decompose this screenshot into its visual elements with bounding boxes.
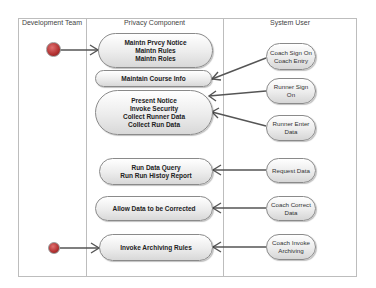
actor-line: Archiving [272,247,310,255]
actor-runner-sign-on[interactable]: Runner Sign On [266,78,316,104]
actor-line: Data [273,128,310,136]
actor-line: On [274,91,308,99]
actor-coach-correct-data[interactable]: Coach Correct Data [266,196,316,221]
actor-line: Coach Sign On [270,49,312,57]
actor-line: Runner Enter [273,120,310,128]
state-line: Invoke Archiving Rules [120,244,192,252]
actor-line: Data [271,209,311,217]
state-line: Run Data Query [120,164,192,172]
actor-line: Coach Correct [271,201,311,209]
state-line: Allow Data to be Corrected [112,205,195,213]
state-line: Collect Run Data [123,121,185,129]
actor-coach-invoke-archiving[interactable]: Coach Invoke Archiving [266,234,316,260]
state-line: Maintn Rules [124,47,186,55]
initial-node[interactable] [48,242,60,254]
actor-coach-sign-on[interactable]: Coach Sign On Coach Entry [266,43,316,70]
state-run-data-query[interactable]: Run Data Query Run Run Histoy Report [99,158,213,185]
state-maintain-privacy[interactable]: Maintn Prvcy Notice Maintn Rules Maintn … [98,33,213,68]
state-line: Invoke Security [123,105,185,113]
actor-runner-enter-data[interactable]: Runner Enter Data [266,115,316,141]
state-invoke-archiving[interactable]: Invoke Archiving Rules [99,234,213,261]
state-line: Present Notice [123,97,185,105]
state-line: Maintn Prvcy Notice [124,39,186,47]
state-line: Collect Runner Data [123,113,185,121]
state-line: Maintain Course Info [121,75,185,83]
actor-line: Request Data [272,167,310,175]
state-line: Run Run Histoy Report [120,172,192,180]
state-present-notice[interactable]: Present Notice Invoke Security Collect R… [95,90,213,135]
actor-line: Coach Invoke [272,239,310,247]
state-allow-data-correction[interactable]: Allow Data to be Corrected [95,196,213,221]
actor-line: Runner Sign [274,83,308,91]
state-maintain-course-info[interactable]: Maintain Course Info [95,70,212,87]
actor-request-data[interactable]: Request Data [266,158,316,183]
initial-node[interactable] [46,42,61,57]
actor-line: Coach Entry [270,57,312,65]
state-line: Maintn Roles [124,55,186,63]
